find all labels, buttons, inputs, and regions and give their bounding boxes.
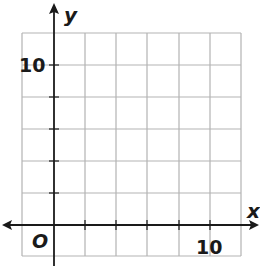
coordinate-plane: y x 10 10 O <box>0 0 260 266</box>
origin-label: O <box>32 230 48 252</box>
x-tick-label-10: 10 <box>196 236 222 258</box>
y-axis-label: y <box>64 3 78 27</box>
y-axis <box>49 3 59 266</box>
x-axis-label: x <box>246 199 260 223</box>
x-axis <box>2 220 259 230</box>
y-tick-label-10: 10 <box>19 54 45 76</box>
